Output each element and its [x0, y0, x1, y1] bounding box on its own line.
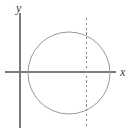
y-axis-label: y [16, 2, 21, 14]
circle-shape [28, 32, 110, 114]
graph-canvas [0, 0, 131, 135]
x-axis-label: x [120, 66, 125, 78]
math-figure: y x [0, 0, 131, 135]
